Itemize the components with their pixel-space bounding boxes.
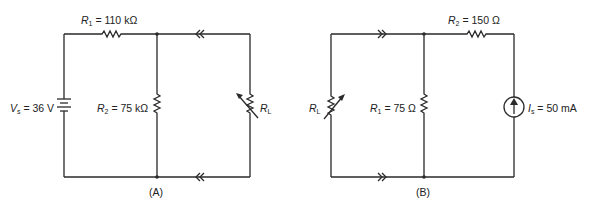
battery-icon	[57, 99, 71, 111]
junction-dot	[155, 32, 159, 36]
circuit-b-r2-label: R2 = 150 Ω	[448, 14, 500, 30]
junction-dot	[422, 175, 426, 179]
circuit-a-r2-label: R2 = 75 kΩ	[97, 102, 148, 118]
circuit-a-source-label: Vs = 36 V	[10, 102, 54, 118]
junction-dot	[422, 32, 426, 36]
circuit-b	[324, 30, 524, 181]
circuit-a-rl-label: RL	[260, 102, 272, 118]
circuit-b-rl-resistor	[328, 34, 334, 177]
junction-dot	[155, 175, 159, 179]
circuit-b-r1-resistor	[421, 34, 427, 177]
circuit-b-rl-label: RL	[309, 102, 321, 118]
circuit-b-caption: (B)	[416, 186, 430, 198]
circuit-a-r2-resistor	[154, 34, 160, 177]
circuit-b-source-label: Is = 50 mA	[528, 102, 577, 118]
circuit-a-r1-label: R1 = 110 kΩ	[81, 14, 137, 30]
variable-arrow-icon	[324, 96, 343, 119]
circuit-a-caption: (A)	[149, 186, 163, 198]
arrowhead-icon	[510, 98, 518, 105]
circuit-a	[57, 30, 258, 181]
arrowhead-icon	[236, 93, 243, 99]
circuit-diagrams	[0, 0, 589, 209]
circuit-b-r1-label: R1 = 75 Ω	[370, 102, 416, 118]
